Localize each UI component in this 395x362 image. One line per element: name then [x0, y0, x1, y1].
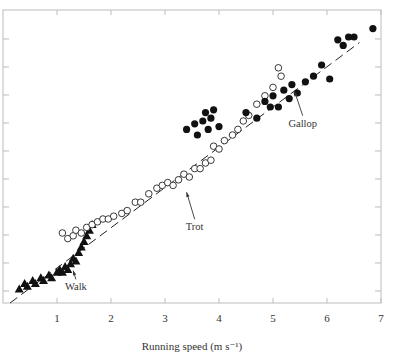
open-circle-marker: [229, 132, 236, 139]
filled-circle-marker: [280, 87, 287, 94]
filled-circle-marker: [199, 117, 206, 124]
open-circle-marker: [59, 230, 66, 237]
open-circle-marker: [137, 199, 144, 206]
filled-circle-marker: [202, 109, 209, 116]
x-tick-label: 4: [216, 312, 222, 324]
gallop-label: Gallop: [288, 118, 317, 129]
filled-circle-marker: [269, 92, 276, 99]
filled-circle-marker: [318, 61, 325, 68]
filled-circle-marker: [369, 25, 376, 32]
open-circle-marker: [221, 137, 228, 144]
plot-frame: [3, 10, 381, 303]
filled-circle-marker: [261, 98, 268, 105]
series-trot: [59, 65, 284, 242]
x-tick-label: 5: [270, 312, 276, 324]
filled-circle-marker: [286, 95, 293, 102]
series-gallop: [183, 25, 377, 139]
open-circle-marker: [175, 177, 182, 184]
data-points: [15, 25, 377, 293]
open-circle-marker: [278, 73, 285, 80]
filled-circle-marker: [210, 106, 217, 113]
filled-circle-marker: [183, 126, 190, 133]
filled-circle-marker: [205, 126, 212, 133]
filled-circle-marker: [242, 109, 249, 116]
filled-circle-marker: [310, 73, 317, 80]
open-circle-marker: [270, 84, 277, 91]
x-tick-label: 3: [162, 312, 168, 324]
filled-circle-marker: [326, 75, 333, 82]
open-circle-marker: [216, 146, 223, 153]
arrowhead-icon: [186, 192, 189, 197]
open-circle-marker: [110, 213, 117, 220]
x-tick-label: 6: [324, 312, 330, 324]
y-axis-ticks: [3, 39, 381, 291]
x-axis-ticks: 1234567: [54, 10, 384, 324]
x-axis-label: Running speed (m s⁻¹): [142, 340, 243, 353]
open-circle-marker: [240, 118, 247, 125]
open-circle-marker: [208, 157, 215, 164]
open-circle-marker: [275, 65, 282, 72]
filled-circle-marker: [334, 36, 341, 43]
scatter-chart: 1234567 WalkTrotGallop Running speed (m …: [0, 0, 395, 362]
filled-circle-marker: [215, 123, 222, 130]
x-tick-label: 7: [378, 312, 384, 324]
trot-label: Trot: [186, 221, 204, 232]
filled-circle-marker: [194, 131, 201, 138]
filled-circle-marker: [340, 42, 347, 49]
filled-circle-marker: [191, 120, 198, 127]
open-circle-marker: [146, 191, 153, 198]
filled-circle-marker: [207, 115, 214, 122]
filled-circle-marker: [350, 33, 357, 40]
filled-circle-marker: [253, 115, 260, 122]
open-circle-marker: [253, 101, 260, 108]
open-circle-marker: [124, 207, 131, 214]
open-circle-marker: [170, 182, 177, 189]
filled-circle-marker: [302, 78, 309, 85]
arrowhead-icon: [73, 271, 76, 276]
open-circle-marker: [197, 165, 204, 172]
open-circle-marker: [78, 230, 85, 237]
open-circle-marker: [235, 126, 242, 133]
annotations: WalkTrotGallop: [65, 91, 317, 292]
x-tick-label: 2: [108, 312, 114, 324]
filled-circle-marker: [275, 103, 282, 110]
filled-circle-marker: [267, 103, 274, 110]
filled-circle-marker: [288, 81, 295, 88]
open-circle-marker: [186, 174, 193, 181]
walk-label: Walk: [65, 281, 88, 292]
x-tick-label: 1: [54, 312, 60, 324]
